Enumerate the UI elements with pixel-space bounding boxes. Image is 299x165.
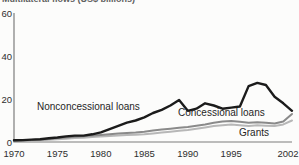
y-tick-label: 40 bbox=[0, 51, 12, 62]
y-tick-label: 20 bbox=[0, 94, 12, 105]
series-label-nonconcessional-loans: Nonconcessional loans bbox=[37, 101, 140, 112]
y-tick-label: 60 bbox=[0, 8, 12, 19]
x-tick-label: 2002 bbox=[274, 148, 299, 159]
line-chart: Multilateral flows (US$ billions) Noncon… bbox=[0, 0, 299, 165]
x-tick-label: 1980 bbox=[87, 148, 115, 159]
x-tick-label: 1985 bbox=[130, 148, 158, 159]
y-tick-label: 0 bbox=[0, 137, 12, 148]
x-tick-label: 1995 bbox=[217, 148, 245, 159]
x-tick-label: 1990 bbox=[174, 148, 202, 159]
series-label-concessional-loans: Concessional loans bbox=[178, 107, 265, 118]
plot-area bbox=[0, 0, 299, 165]
x-tick-label: 1975 bbox=[43, 148, 71, 159]
x-tick-label: 1970 bbox=[0, 148, 28, 159]
series-label-grants: Grants bbox=[239, 127, 269, 138]
